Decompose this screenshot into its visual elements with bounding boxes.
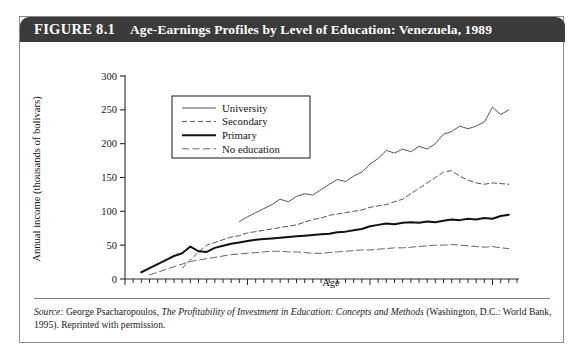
figure-title: Age-Earnings Profiles by Level of Educat…: [130, 22, 492, 38]
legend-label-primary: Primary: [222, 129, 257, 141]
y-tick-label: 0: [112, 274, 117, 285]
y-axis: 050100150200250300: [101, 71, 125, 285]
y-tick-label: 300: [101, 71, 117, 82]
y-axis-title: Annual income (thousands of bolivars): [31, 96, 43, 262]
y-tick-label: 100: [101, 206, 117, 217]
source-divider: [34, 298, 550, 299]
legend-label-no-education: No education: [222, 143, 280, 155]
source-author: George Psacharopoulos,: [66, 306, 159, 317]
x-tick-label: 40: [365, 288, 376, 290]
age-earnings-line-chart: 050100150200250300 10254055 UniversitySe…: [20, 42, 565, 290]
source-work-title: The Profitability of Investment in Educa…: [161, 306, 423, 317]
chart-legend: UniversitySecondaryPrimaryNo education: [172, 96, 310, 158]
source-note: Source: George Psacharopoulos, The Profi…: [34, 305, 552, 331]
x-axis-title: Age: [322, 277, 340, 288]
series-line-no-education: [150, 244, 509, 274]
x-tick-label: 10: [120, 288, 131, 290]
series-line-primary: [141, 215, 509, 273]
legend-label-secondary: Secondary: [222, 115, 268, 127]
figure-number-label: FIGURE 8.1: [34, 21, 115, 38]
chart-plot-area: 050100150200250300 10254055 UniversitySe…: [20, 42, 565, 290]
figure-header-bar: FIGURE 8.1 Age-Earnings Profiles by Leve…: [20, 17, 565, 42]
x-tick-label: 55: [487, 288, 498, 290]
y-tick-label: 250: [101, 104, 117, 115]
x-axis: 10254055: [120, 279, 519, 290]
y-tick-label: 50: [107, 240, 118, 251]
y-tick-label: 200: [101, 138, 117, 149]
legend-label-university: University: [222, 102, 268, 114]
x-tick-label: 25: [242, 288, 253, 290]
source-prefix: Source:: [34, 306, 63, 317]
y-tick-label: 150: [101, 172, 117, 183]
figure-card: FIGURE 8.1 Age-Earnings Profiles by Leve…: [19, 16, 564, 343]
